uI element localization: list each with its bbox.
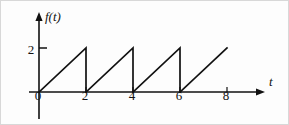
sawtooth-waveform-figure: f(t) t 2 0 2 4 6 8 xyxy=(0,0,289,125)
x-tick-label-4: 4 xyxy=(126,89,138,102)
x-tick-label-0: 0 xyxy=(32,89,44,102)
x-tick-label-8: 8 xyxy=(220,89,232,102)
sawtooth-curve xyxy=(39,48,227,92)
x-tick-label-6: 6 xyxy=(173,89,185,102)
x-axis-label: t xyxy=(269,75,273,88)
x-tick-label-2: 2 xyxy=(79,89,91,102)
y-axis-label: f(t) xyxy=(45,10,61,23)
y-tick-label-2: 2 xyxy=(25,43,37,56)
